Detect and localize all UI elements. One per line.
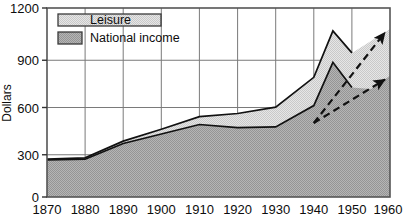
- y-tick-label: 900: [17, 53, 39, 68]
- chart-figure: 1200 900 600 300 0 Dollars 1870 1880 189…: [0, 0, 403, 222]
- x-tick-label: 1920: [223, 202, 252, 217]
- y-tick-label: 300: [17, 148, 39, 163]
- x-tick-label: 1900: [147, 202, 176, 217]
- x-tick-label: 1910: [185, 202, 214, 217]
- area-chart: 1200 900 600 300 0 Dollars 1870 1880 189…: [0, 0, 403, 222]
- legend-label-national-income: National income: [90, 31, 180, 45]
- x-tick-label: 1930: [261, 202, 290, 217]
- legend-swatch-national-income: [58, 32, 82, 44]
- x-tick-label: 1890: [109, 202, 138, 217]
- x-tick-label: 1940: [299, 202, 328, 217]
- x-tick-label: 1950: [337, 202, 366, 217]
- x-tick-label: 1870: [33, 202, 62, 217]
- y-axis-title: Dollars: [0, 84, 14, 121]
- y-tick-label: 1200: [10, 1, 39, 16]
- x-tick-label: 1880: [71, 202, 100, 217]
- x-tick-label: 1960: [374, 202, 403, 217]
- legend-label-leisure: Leisure: [90, 13, 131, 27]
- y-tick-label: 600: [17, 101, 39, 116]
